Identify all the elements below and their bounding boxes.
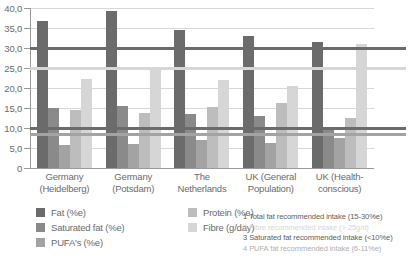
y-axis-tick [24, 8, 30, 9]
y-axis-tick [24, 168, 30, 169]
bar [243, 36, 254, 168]
bar [185, 114, 196, 168]
bar [59, 145, 70, 168]
legend-swatch-icon [36, 238, 45, 247]
y-axis-tick-label: 0 [17, 163, 22, 174]
bar [265, 143, 276, 168]
chart-root: 40,035,030,025,020,015,010,05,00 1234 Ge… [0, 0, 409, 265]
bar [312, 42, 323, 168]
bar-groups [30, 8, 374, 168]
y-axis-tick [24, 108, 30, 109]
legend-swatch-icon [188, 223, 197, 232]
y-axis-tick [24, 68, 30, 69]
bar [174, 30, 185, 168]
x-axis-category-labels: Germany(Heidelberg)Germany(Potsdam)TheNe… [24, 171, 374, 203]
legend-label: Saturated fat (%e) [51, 222, 125, 233]
bar [345, 118, 356, 168]
legend-item[interactable]: Fat (%e) [36, 205, 125, 220]
y-axis-tick [24, 28, 30, 29]
footnote-2: 2 Fibre recommended intake (> 25g/d) [243, 223, 409, 234]
bar-group [236, 8, 305, 168]
legend-item[interactable]: Saturated fat (%e) [36, 220, 125, 235]
legend-label: Fat (%e) [51, 207, 86, 218]
bar [356, 44, 367, 168]
category-label-line: (Potsdam) [99, 183, 168, 195]
y-axis-tick-label: 25,0 [4, 63, 22, 74]
y-axis-tick-labels: 40,035,030,025,020,015,010,05,00 [0, 0, 22, 176]
y-axis-tick [24, 128, 30, 129]
legend-swatch-icon [36, 223, 45, 232]
legend-column-1: Fat (%e)Saturated fat (%e)PUFA's (%e) [36, 205, 125, 250]
reference-line-4 [30, 133, 406, 136]
y-axis-tick-label: 15,0 [4, 103, 22, 114]
bar [207, 107, 218, 168]
bar [117, 106, 128, 168]
footnote-list: 1 Total fat recommended intake (15-30%e)… [243, 212, 409, 254]
x-axis-category-label: UK (GeneralPopulation) [236, 171, 305, 194]
y-axis-tick-label: 20,0 [4, 83, 22, 94]
category-label-line: Population) [236, 183, 305, 195]
bar [37, 21, 48, 168]
category-label-line: (Heidelberg) [30, 183, 99, 195]
reference-line-2 [30, 67, 406, 70]
y-axis-tick-label: 10,0 [4, 123, 22, 134]
legend-label: PUFA's (%e) [51, 237, 103, 248]
bar [218, 80, 229, 168]
reference-line-1 [30, 47, 406, 50]
x-axis-line [24, 168, 374, 169]
bar-group [30, 8, 99, 168]
bar [139, 113, 150, 168]
y-axis-tick-label: 35,0 [4, 23, 22, 34]
y-axis-tick-label: 40,0 [4, 3, 22, 14]
category-label-line: The [168, 171, 237, 183]
category-label-line: Netherlands [168, 183, 237, 195]
y-axis-tick [24, 88, 30, 89]
bar [128, 144, 139, 168]
bar [81, 79, 92, 168]
bar [106, 11, 117, 168]
legend-item[interactable]: PUFA's (%e) [36, 235, 125, 250]
footnote-4: 4 PUFA fat recommended intake (6-11%e) [243, 244, 409, 255]
x-axis-category-label: UK (Health-conscious) [305, 171, 374, 194]
bar [70, 110, 81, 168]
bar [150, 69, 161, 168]
y-axis-tick-label: 5,0 [9, 143, 22, 154]
legend-swatch-icon [188, 208, 197, 217]
category-label-line: Germany [30, 171, 99, 183]
bar [48, 108, 59, 168]
footnote-3: 3 Saturated fat recommended intake (<10%… [243, 233, 409, 244]
y-axis-tick-label: 30,0 [4, 43, 22, 54]
footnote-1: 1 Total fat recommended intake (15-30%e) [243, 212, 409, 223]
x-axis-category-label: Germany(Potsdam) [99, 171, 168, 194]
y-axis-tick [24, 48, 30, 49]
bar-group [99, 8, 168, 168]
bar-group [168, 8, 237, 168]
bar-group [305, 8, 374, 168]
bar [196, 140, 207, 168]
category-label-line: conscious) [305, 183, 374, 195]
y-axis-tick [24, 148, 30, 149]
reference-line-3 [30, 127, 406, 130]
bar [334, 138, 345, 168]
x-axis-category-label: TheNetherlands [168, 171, 237, 194]
category-label-line: UK (General [236, 171, 305, 183]
category-label-line: UK (Health- [305, 171, 374, 183]
legend-swatch-icon [36, 208, 45, 217]
x-axis-category-label: Germany(Heidelberg) [30, 171, 99, 194]
category-label-line: Germany [99, 171, 168, 183]
bar [254, 116, 265, 168]
